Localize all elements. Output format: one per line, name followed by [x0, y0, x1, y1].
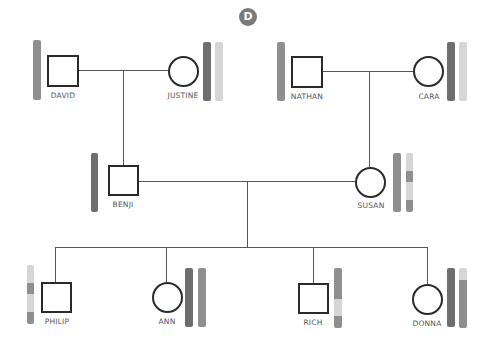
bar-segment	[27, 283, 34, 295]
allele-bar	[33, 40, 41, 100]
bar-segment	[27, 312, 34, 324]
child-line-donna	[427, 247, 428, 284]
allele-bar	[459, 268, 467, 328]
female-symbol	[152, 282, 183, 313]
male-symbol	[41, 282, 72, 313]
individual-label: RICH	[298, 318, 328, 327]
allele-bar	[447, 42, 455, 101]
bar-segment	[447, 42, 455, 101]
descent-line-children	[247, 181, 248, 247]
bar-segment	[459, 268, 467, 280]
bar-segment	[33, 40, 41, 100]
female-symbol	[412, 284, 443, 315]
couple-line-david-justine	[79, 70, 169, 71]
allele-bar	[277, 42, 285, 101]
allele-bar	[91, 153, 98, 212]
bar-segment	[334, 268, 342, 299]
allele-bar	[447, 268, 455, 327]
bar-segment	[203, 42, 211, 101]
allele-bar	[459, 42, 467, 101]
bar-segment	[447, 268, 455, 327]
descent-line-benji	[123, 70, 124, 165]
allele-bar	[215, 42, 223, 101]
male-symbol	[108, 165, 139, 196]
male-symbol	[291, 56, 323, 88]
bar-segment	[393, 153, 401, 212]
bar-segment	[215, 42, 223, 101]
panel-label-badge: D	[239, 8, 257, 26]
bar-segment	[406, 153, 413, 171]
allele-bar	[406, 153, 413, 212]
bar-segment	[459, 280, 467, 328]
child-line-ann	[166, 247, 167, 282]
individual-label: PHILIP	[38, 317, 76, 326]
allele-bar	[203, 42, 211, 101]
individual-label: NATHAN	[287, 92, 327, 101]
individual-label: SUSAN	[354, 201, 388, 210]
bar-segment	[334, 299, 342, 316]
male-symbol	[47, 55, 79, 87]
female-symbol	[413, 56, 444, 87]
bar-segment	[277, 42, 285, 101]
couple-line-nathan-cara	[322, 71, 414, 72]
individual-label: JUSTINE	[163, 91, 203, 100]
female-symbol	[168, 56, 199, 87]
individual-label: DAVID	[44, 91, 82, 100]
bar-segment	[185, 268, 193, 327]
allele-bar	[198, 268, 206, 327]
child-line-rich	[313, 247, 314, 283]
allele-bar	[334, 268, 342, 328]
allele-bar	[185, 268, 193, 327]
individual-label: ANN	[152, 317, 182, 326]
bar-segment	[91, 153, 98, 212]
male-symbol	[298, 283, 329, 314]
bar-segment	[27, 294, 34, 312]
child-line-philip	[55, 247, 56, 282]
sibship-line	[55, 247, 428, 248]
individual-label: DONNA	[408, 319, 446, 328]
allele-bar	[393, 153, 401, 212]
bar-segment	[198, 268, 206, 327]
allele-bar	[27, 265, 34, 324]
bar-segment	[406, 171, 413, 183]
descent-line-susan	[369, 71, 370, 167]
bar-segment	[459, 42, 467, 101]
bar-segment	[27, 265, 34, 283]
individual-label: CARA	[412, 92, 446, 101]
bar-segment	[334, 316, 342, 328]
bar-segment	[406, 200, 413, 212]
bar-segment	[406, 182, 413, 200]
individual-label: BENJI	[106, 200, 140, 209]
female-symbol	[355, 167, 386, 198]
